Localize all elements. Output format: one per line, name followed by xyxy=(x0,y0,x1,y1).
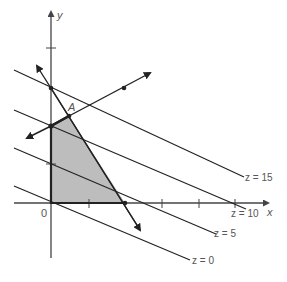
contour-label-z15: z = 15 xyxy=(245,172,273,183)
contour-label-z0: z = 0 xyxy=(192,255,214,266)
contour-label-z10: z = 10 xyxy=(231,208,259,219)
vertex-a-label: A xyxy=(67,101,75,113)
point-direction xyxy=(122,86,127,91)
point-intercept-top xyxy=(49,86,54,91)
point-y-intercept xyxy=(48,123,53,128)
point-a xyxy=(67,114,72,119)
lp-diagram: y x 0 A z = 15 z = 10 z = 5 z = 0 xyxy=(0,0,287,282)
x-axis-label: x xyxy=(266,206,273,218)
constraint-line-ascending xyxy=(69,73,150,116)
contour-z15 xyxy=(14,70,244,177)
y-axis-label: y xyxy=(56,9,64,21)
contour-label-z5: z = 5 xyxy=(214,228,236,239)
point-x-intercept xyxy=(123,201,128,206)
constraint-line-ascending-end xyxy=(27,126,51,138)
origin-label: 0 xyxy=(41,207,47,219)
